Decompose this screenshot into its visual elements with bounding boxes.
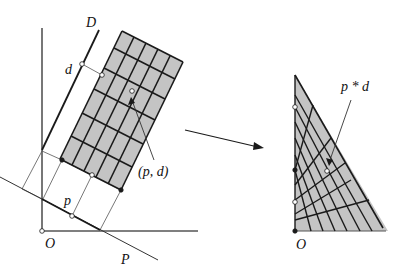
point-O-right (293, 229, 297, 233)
label-O-right: O (296, 237, 306, 252)
left-diagram: D d p (p, d) O P (0, 15, 198, 267)
label-O-left: O (45, 236, 55, 251)
point-p (70, 214, 75, 219)
label-D: D (85, 15, 96, 30)
label-pstar: p * d (340, 79, 370, 94)
label-d: d (65, 62, 73, 77)
point-pstar (325, 169, 330, 174)
pointer-pstar (330, 100, 351, 160)
label-P: P (120, 252, 130, 267)
mapping-arrow (185, 130, 264, 150)
point-O (40, 229, 45, 234)
right-diagram: p * d O (293, 75, 388, 252)
point-pd (130, 89, 135, 94)
label-pd: (p, d) (138, 164, 169, 180)
diagram-canvas: D d p (p, d) O P (0, 0, 407, 280)
label-p: p (63, 193, 71, 208)
point-d (80, 62, 85, 67)
